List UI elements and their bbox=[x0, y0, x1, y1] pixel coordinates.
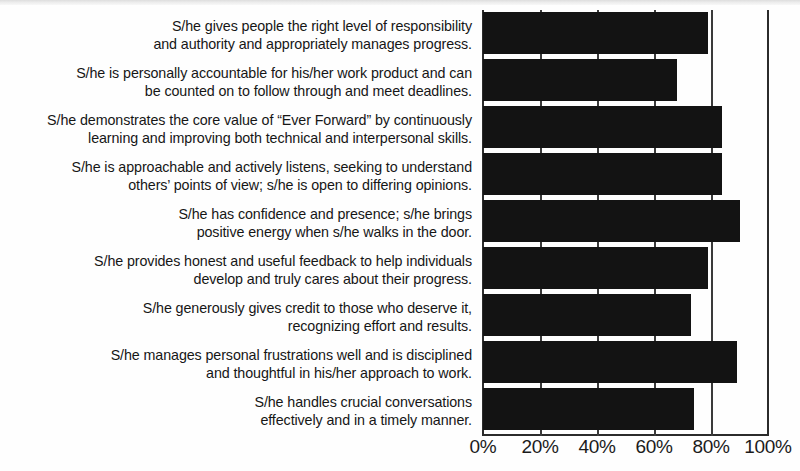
category-label: S/he gives people the right level of res… bbox=[0, 12, 478, 59]
category-label: S/he manages personal frustrations well … bbox=[0, 341, 478, 388]
bar-track bbox=[483, 294, 768, 336]
category-label: S/he is personally accountable for his/h… bbox=[0, 59, 478, 106]
bar-track bbox=[483, 59, 768, 101]
category-label-line: S/he manages personal frustrations well … bbox=[111, 347, 472, 365]
bar[interactable] bbox=[483, 247, 708, 289]
x-tick-label: 20% bbox=[521, 436, 558, 458]
bar-track bbox=[483, 106, 768, 148]
bar[interactable] bbox=[483, 200, 740, 242]
bar-track bbox=[483, 12, 768, 54]
category-label: S/he demonstrates the core value of “Eve… bbox=[0, 106, 478, 153]
category-label-line: S/he generously gives credit to those wh… bbox=[143, 300, 472, 318]
x-tick-label: 0% bbox=[470, 436, 497, 458]
category-label-line: learning and improving both technical an… bbox=[88, 130, 472, 148]
category-label-line: S/he gives people the right level of res… bbox=[172, 18, 472, 36]
bar[interactable] bbox=[483, 59, 677, 101]
category-label-line: and thoughtful in his/her approach to wo… bbox=[206, 365, 472, 383]
category-label-line: be counted on to follow through and meet… bbox=[145, 83, 472, 101]
category-label-line: and authority and appropriately manages … bbox=[153, 36, 472, 54]
category-label: S/he is approachable and actively listen… bbox=[0, 153, 478, 200]
category-label-line: S/he is personally accountable for his/h… bbox=[76, 65, 472, 83]
category-label: S/he generously gives credit to those wh… bbox=[0, 294, 478, 341]
category-label-line: S/he provides honest and useful feedback… bbox=[94, 253, 472, 271]
x-tick-label: 40% bbox=[578, 436, 615, 458]
bar-track bbox=[483, 153, 768, 195]
category-label-line: S/he has confidence and presence; s/he b… bbox=[178, 206, 472, 224]
bar-track bbox=[483, 247, 768, 289]
category-label-line: S/he demonstrates the core value of “Eve… bbox=[47, 112, 472, 130]
category-label-column: S/he gives people the right level of res… bbox=[0, 12, 478, 435]
bar[interactable] bbox=[483, 12, 708, 54]
category-label-line: positive energy when s/he walks in the d… bbox=[197, 224, 472, 242]
bar-track bbox=[483, 388, 768, 430]
bar-track bbox=[483, 341, 768, 383]
category-label: S/he handles crucial conversations effec… bbox=[0, 388, 478, 435]
bar[interactable] bbox=[483, 388, 694, 430]
category-label-line: S/he is approachable and actively listen… bbox=[71, 159, 472, 177]
category-label-line: effectively and in a timely manner. bbox=[260, 412, 472, 430]
category-label-line: S/he handles crucial conversations bbox=[254, 394, 472, 412]
bar[interactable] bbox=[483, 294, 691, 336]
category-label: S/he provides honest and useful feedback… bbox=[0, 247, 478, 294]
category-label-line: recognizing effort and results. bbox=[288, 318, 472, 336]
bar[interactable] bbox=[483, 153, 722, 195]
bar[interactable] bbox=[483, 106, 722, 148]
bar[interactable] bbox=[483, 341, 737, 383]
bar-track bbox=[483, 200, 768, 242]
x-tick-label: 60% bbox=[635, 436, 672, 458]
x-axis-tick-labels: 0%20%40%60%80%100% bbox=[483, 436, 768, 466]
plot-area bbox=[483, 12, 768, 434]
horizontal-bar-chart: S/he gives people the right level of res… bbox=[0, 0, 800, 471]
category-label-line: others’ points of view; s/he is open to … bbox=[128, 177, 472, 195]
category-label: S/he has confidence and presence; s/he b… bbox=[0, 200, 478, 247]
category-label-line: develop and truly cares about their prog… bbox=[194, 271, 472, 289]
x-tick-label: 100% bbox=[744, 436, 791, 458]
x-tick-label: 80% bbox=[692, 436, 729, 458]
